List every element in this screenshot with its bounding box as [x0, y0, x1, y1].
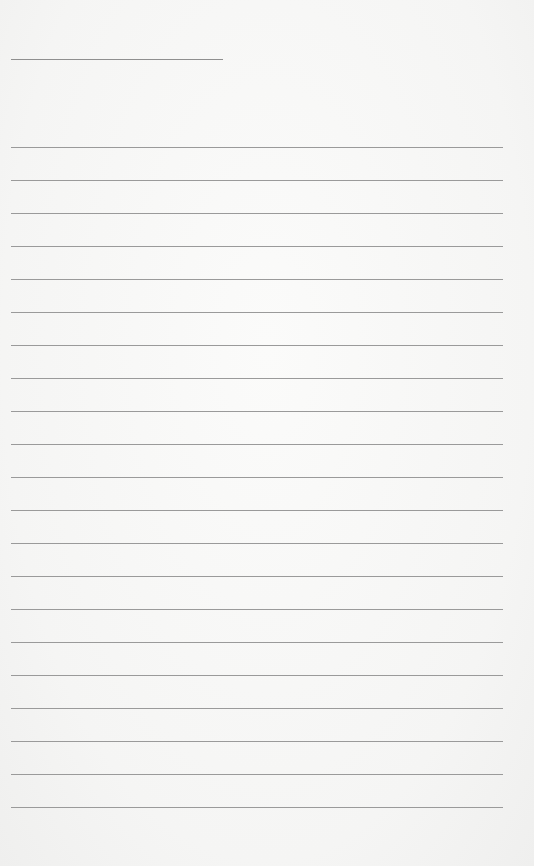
- ruled-line: [11, 411, 503, 412]
- ruled-line: [11, 576, 503, 577]
- ruled-line: [11, 543, 503, 544]
- ruled-line: [11, 708, 503, 709]
- header-name-line: [11, 59, 223, 60]
- lined-paper-page: [0, 0, 534, 866]
- ruled-line: [11, 807, 503, 808]
- ruled-line: [11, 147, 503, 148]
- ruled-line: [11, 279, 503, 280]
- ruled-line: [11, 312, 503, 313]
- ruled-line: [11, 642, 503, 643]
- ruled-line: [11, 345, 503, 346]
- ruled-line: [11, 675, 503, 676]
- ruled-line: [11, 774, 503, 775]
- ruled-line: [11, 246, 503, 247]
- ruled-line: [11, 213, 503, 214]
- ruled-line: [11, 741, 503, 742]
- ruled-line: [11, 444, 503, 445]
- ruled-line: [11, 609, 503, 610]
- ruled-line: [11, 378, 503, 379]
- ruled-line: [11, 180, 503, 181]
- ruled-line: [11, 510, 503, 511]
- ruled-line: [11, 477, 503, 478]
